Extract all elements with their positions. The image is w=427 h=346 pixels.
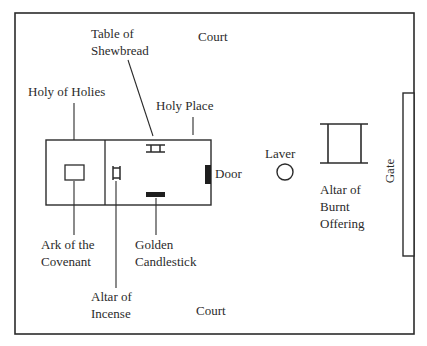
leader-table-of-shewbread	[128, 60, 153, 136]
tabernacle-diagram: Court Table of Shewbread Holy of Holies …	[0, 0, 427, 346]
tabernacle-outline	[46, 140, 211, 205]
label-door: Door	[215, 165, 242, 182]
label-altar-of-burnt-offering: Altar of Burnt Offering	[320, 181, 365, 232]
ark-of-covenant-shape	[65, 165, 84, 180]
label-laver: Laver	[265, 145, 295, 162]
altar-of-incense-shape	[113, 166, 120, 180]
door-shape	[205, 165, 211, 184]
label-court-bottom: Court	[196, 302, 226, 319]
altar-of-burnt-offering-shape	[320, 124, 368, 163]
label-gate: Gate	[382, 156, 398, 186]
label-court-top: Court	[198, 28, 228, 45]
diagram-lines	[0, 0, 427, 346]
golden-candlestick-shape	[146, 192, 165, 197]
table-of-shewbread-shape	[146, 145, 165, 152]
gate-shape	[403, 93, 414, 256]
label-ark-of-the-covenant: Ark of the Covenant	[41, 236, 94, 270]
label-altar-of-incense: Altar of Incense	[91, 288, 132, 322]
label-table-of-shewbread: Table of Shewbread	[91, 25, 149, 59]
laver-shape	[277, 164, 293, 180]
label-holy-of-holies: Holy of Holies	[28, 83, 105, 100]
label-golden-candlestick: Golden Candlestick	[135, 236, 196, 270]
label-holy-place: Holy Place	[156, 97, 213, 114]
